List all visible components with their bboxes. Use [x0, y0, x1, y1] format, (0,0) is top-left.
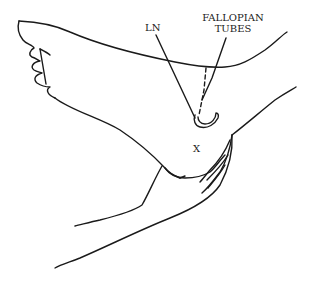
ln-label: LN [145, 22, 160, 33]
thumb-outline [75, 166, 162, 226]
ln-pointer-line [156, 35, 195, 118]
x-mark-label: X [193, 143, 200, 154]
fallopian-label-line2: TUBES [193, 23, 273, 34]
fallopian-dashed-path [199, 68, 206, 115]
ankle-bone [194, 113, 218, 127]
fallopian-tubes-label: FALLOPIAN TUBES [193, 12, 273, 34]
diagram-canvas: LN FALLOPIAN TUBES X [0, 0, 313, 283]
fallopian-label-line1: FALLOPIAN [193, 12, 273, 23]
foot-and-hand-drawing [0, 0, 313, 283]
toes-inner-line [40, 49, 46, 84]
toes-outline [18, 21, 55, 98]
leg-back-outline [232, 87, 296, 135]
